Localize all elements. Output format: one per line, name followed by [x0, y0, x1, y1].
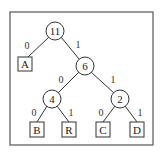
edge-4-to-R: [57, 106, 69, 122]
leaf-C: C: [96, 122, 110, 137]
leaf-A: A: [18, 57, 32, 71]
edge-label-2-D: 1: [138, 107, 143, 118]
edge-label-6-2: 1: [111, 74, 116, 85]
edge-4-to-B: [37, 106, 47, 122]
edge-label-root-6: 1: [76, 39, 81, 50]
edge-label-6-4: 0: [59, 74, 64, 85]
edge-label-root-A: 0: [25, 40, 30, 51]
node-2: 2: [111, 90, 129, 108]
node-4: 4: [43, 90, 61, 108]
node-label: 11: [50, 25, 61, 37]
leaf-label: A: [21, 58, 29, 70]
node-label: 4: [49, 93, 55, 105]
edge-2-to-D: [125, 106, 137, 122]
leaf-label: D: [133, 124, 141, 136]
node-label: 2: [117, 93, 123, 105]
leaf-B: B: [30, 122, 44, 137]
node-root: 11: [46, 22, 64, 40]
edge-label-4-B: 0: [32, 107, 37, 118]
node-6: 6: [76, 57, 94, 75]
edge-label-4-R: 1: [69, 107, 74, 118]
node-label: 6: [82, 60, 88, 72]
leaf-R: R: [62, 122, 76, 137]
huffman-tree-diagram: 0 1 0 1 0 1 0 1 11 6 4 2 A B R C D: [0, 0, 162, 152]
leaf-D: D: [130, 122, 144, 137]
edge-label-2-C: 0: [99, 107, 104, 118]
edge-2-to-C: [103, 106, 115, 122]
edge-root-to-A: [28, 37, 49, 57]
leaf-label: R: [65, 124, 73, 136]
leaf-label: C: [99, 124, 106, 136]
leaf-label: B: [33, 124, 40, 136]
